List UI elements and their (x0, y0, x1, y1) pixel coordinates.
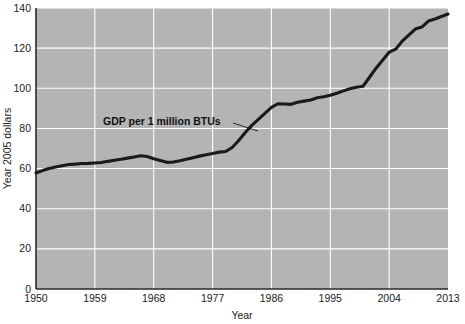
y-tick-label-60: 60 (19, 162, 31, 174)
annotation-label-gdp-per-million-btus: GDP per 1 million BTUs (103, 115, 221, 127)
y-axis-title: Year 2005 dollars (1, 108, 13, 189)
y-tick-label-140: 140 (13, 2, 31, 14)
x-tick-label-1977: 1977 (201, 292, 225, 304)
x-axis-title: Year (231, 309, 253, 321)
x-tick-label-1959: 1959 (83, 292, 107, 304)
plot-background (36, 8, 448, 289)
x-tick-label-2004: 2004 (377, 292, 401, 304)
x-tick-label-1950: 1950 (24, 292, 48, 304)
y-tick-label-80: 80 (19, 122, 31, 134)
x-tick-label-1968: 1968 (142, 292, 166, 304)
chart-figure: 0204060801001201401950195919681977198619… (0, 0, 465, 324)
y-tick-label-40: 40 (19, 202, 31, 214)
y-tick-label-120: 120 (13, 42, 31, 54)
x-tick-label-1986: 1986 (260, 292, 284, 304)
x-tick-label-2013: 2013 (436, 292, 460, 304)
line-chart: 0204060801001201401950195919681977198619… (0, 0, 465, 324)
y-tick-label-100: 100 (13, 82, 31, 94)
x-tick-label-1995: 1995 (319, 292, 343, 304)
y-tick-label-20: 20 (19, 242, 31, 254)
